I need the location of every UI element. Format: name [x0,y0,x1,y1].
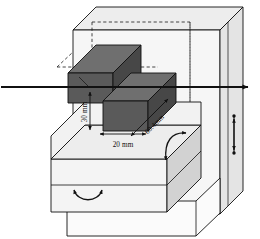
stage-lower-front [51,159,167,212]
block-lower-front [103,101,148,131]
technical-diagram-svg: 30 mm 20 mm 60.4mm [0,0,260,239]
enclosure-right-face [220,7,243,214]
dim-height-label: 30 mm [81,101,89,122]
enclosure-top-face [73,7,243,30]
figure-canvas: 30 mm 20 mm 60.4mm [0,0,260,239]
dim-width-label: 20 mm [113,141,134,149]
